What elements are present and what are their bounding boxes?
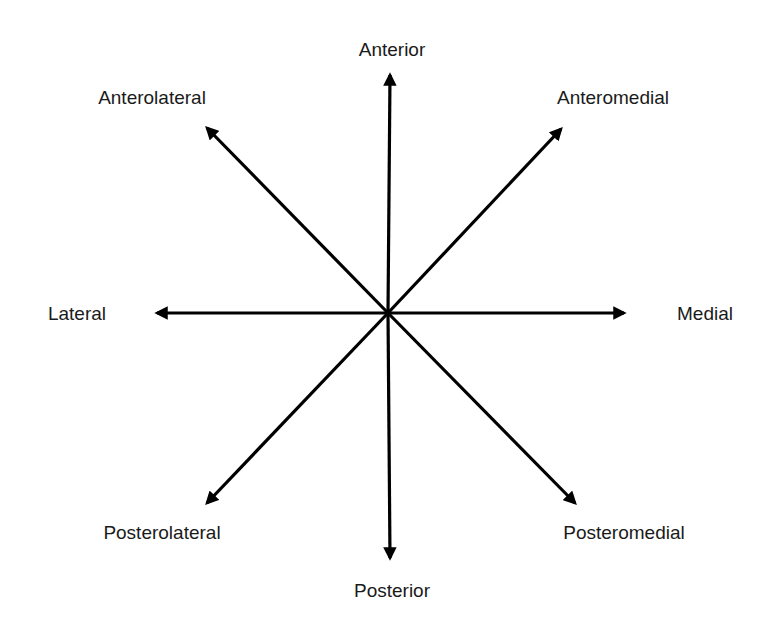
arrow-posteromedial-icon	[388, 313, 575, 503]
label-anteromedial: Anteromedial	[557, 88, 669, 107]
label-posterolateral: Posterolateral	[103, 523, 220, 542]
label-posterior: Posterior	[354, 581, 430, 600]
label-anterolateral: Anterolateral	[98, 88, 206, 107]
arrow-posterolateral-icon	[207, 313, 388, 503]
arrow-posterior-icon	[388, 313, 390, 558]
label-medial: Medial	[677, 304, 733, 323]
arrow-anterolateral-icon	[207, 128, 388, 313]
arrow-anterior-icon	[388, 75, 390, 313]
arrow-anteromedial-icon	[388, 129, 561, 313]
label-lateral: Lateral	[48, 304, 106, 323]
label-posteromedial: Posteromedial	[563, 523, 684, 542]
label-anterior: Anterior	[359, 40, 426, 59]
